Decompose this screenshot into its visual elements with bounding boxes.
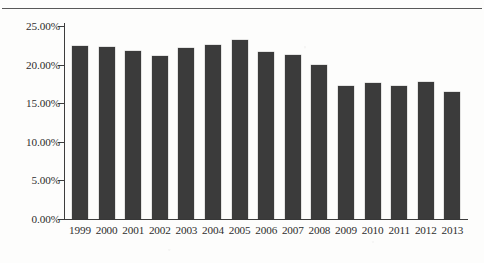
bar-2006 — [258, 52, 274, 219]
y-tick-label: 25.00% — [26, 20, 60, 32]
bar-1999 — [72, 46, 88, 219]
bar-chart: 0.00%5.00%10.00%15.00%20.00%25.00% 19992… — [0, 0, 484, 263]
x-label-1999: 1999 — [65, 224, 95, 236]
bar-2002 — [152, 56, 168, 219]
bar-2007 — [285, 55, 301, 219]
bar-2001 — [125, 51, 141, 219]
bar-2008 — [311, 65, 327, 219]
y-tick-label: 15.00% — [26, 97, 60, 109]
bar-2004 — [205, 45, 221, 219]
y-tick-label: 5.00% — [32, 174, 60, 186]
bar-2013 — [444, 92, 460, 219]
x-label-2007: 2007 — [278, 224, 308, 236]
x-label-2000: 2000 — [92, 224, 122, 236]
bar-2003 — [178, 48, 194, 219]
bar-2010 — [365, 83, 381, 219]
x-label-2012: 2012 — [411, 224, 441, 236]
plot-area: 0.00%5.00%10.00%15.00%20.00%25.00% — [64, 26, 468, 219]
y-tick-label: 0.00% — [32, 213, 60, 225]
x-label-2004: 2004 — [198, 224, 228, 236]
x-label-2008: 2008 — [304, 224, 334, 236]
y-tick-label: 10.00% — [26, 136, 60, 148]
x-label-2009: 2009 — [331, 224, 361, 236]
y-tick-label: 20.00% — [26, 59, 60, 71]
bar-2000 — [99, 47, 115, 219]
bar-2012 — [418, 82, 434, 219]
x-label-2013: 2013 — [437, 224, 467, 236]
chart-page: 0.00%5.00%10.00%15.00%20.00%25.00% 19992… — [0, 0, 484, 263]
bar-2005 — [232, 40, 248, 219]
x-label-2001: 2001 — [118, 224, 148, 236]
bar-2009 — [338, 86, 354, 219]
x-label-2003: 2003 — [171, 224, 201, 236]
bar-2011 — [391, 86, 407, 219]
x-label-2006: 2006 — [251, 224, 281, 236]
x-label-2010: 2010 — [358, 224, 388, 236]
x-label-2002: 2002 — [145, 224, 175, 236]
x-axis-line — [64, 219, 468, 220]
x-label-2011: 2011 — [384, 224, 414, 236]
x-label-2005: 2005 — [225, 224, 255, 236]
bars-container — [64, 26, 468, 219]
